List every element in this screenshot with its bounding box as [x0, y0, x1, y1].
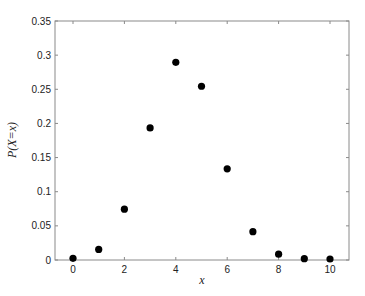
- x-tick-label: 10: [324, 264, 336, 275]
- data-point: [69, 255, 76, 262]
- x-tick-label: 8: [276, 264, 282, 275]
- chart: 00.050.10.150.20.250.30.35 0246810 x P(X…: [0, 0, 365, 296]
- plot-border: [55, 21, 349, 260]
- data-points: [69, 59, 333, 263]
- data-point: [326, 255, 333, 262]
- data-point: [249, 228, 256, 235]
- data-point: [224, 165, 231, 172]
- x-axis-label: x: [198, 273, 205, 287]
- x-axis-ticks: 0246810: [70, 21, 336, 275]
- data-point: [172, 59, 179, 66]
- y-axis-ticks: 00.050.10.150.20.250.30.35: [32, 16, 349, 266]
- y-tick-label: 0.05: [32, 220, 52, 231]
- y-tick-label: 0.35: [32, 16, 52, 27]
- y-axis-label: P(X=x): [5, 122, 19, 159]
- y-tick-label: 0.25: [32, 84, 52, 95]
- y-tick-label: 0.15: [32, 152, 52, 163]
- plot-frame: [55, 21, 349, 260]
- data-point: [95, 246, 102, 253]
- y-tick-label: 0.1: [37, 186, 51, 197]
- data-point: [198, 83, 205, 90]
- x-tick-label: 4: [173, 264, 179, 275]
- x-tick-label: 6: [224, 264, 230, 275]
- data-point: [275, 251, 282, 258]
- x-tick-label: 0: [70, 264, 76, 275]
- y-tick-label: 0.2: [37, 118, 51, 129]
- x-tick-label: 2: [122, 264, 128, 275]
- data-point: [301, 255, 308, 262]
- data-point: [121, 206, 128, 213]
- y-tick-label: 0: [45, 255, 51, 266]
- y-tick-label: 0.3: [37, 50, 51, 61]
- data-point: [147, 124, 154, 131]
